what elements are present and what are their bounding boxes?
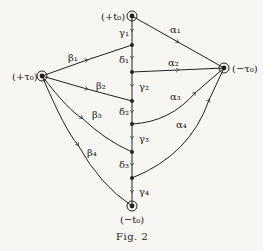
label-delta3: δ₃ bbox=[119, 159, 129, 170]
label-gamma2: γ₂ bbox=[139, 81, 149, 92]
label-alpha1: α₁ bbox=[170, 24, 181, 35]
label-alpha4: α₄ bbox=[176, 119, 187, 130]
node-5 bbox=[130, 150, 134, 154]
node-2 bbox=[130, 70, 134, 74]
label-gamma1: γ₁ bbox=[119, 27, 129, 38]
label-beta3: β₃ bbox=[92, 109, 102, 120]
label-left-node: (+τ₀) bbox=[12, 71, 38, 82]
node-4 bbox=[130, 122, 134, 126]
node-6 bbox=[130, 176, 134, 180]
label-beta4: β₄ bbox=[87, 147, 97, 158]
label-beta1: β₁ bbox=[68, 52, 78, 63]
label-delta1: δ₁ bbox=[119, 54, 129, 65]
label-alpha2: α₂ bbox=[168, 57, 179, 68]
edge-beta4 bbox=[42, 76, 132, 206]
node-1 bbox=[130, 43, 134, 47]
figure-caption: Fig. 2 bbox=[116, 231, 148, 242]
node-bottom bbox=[130, 204, 135, 209]
label-right-node: (−τ₀) bbox=[232, 63, 258, 74]
figure-2: (+t₀) (+τ₀) (−τ₀) (−t₀) α₁ α₂ α₃ α₄ β₁ β… bbox=[0, 0, 263, 251]
edge-beta2 bbox=[42, 76, 132, 101]
label-delta2: δ₂ bbox=[119, 106, 129, 117]
network-diagram: (+t₀) (+τ₀) (−τ₀) (−t₀) α₁ α₂ α₃ α₄ β₁ β… bbox=[0, 0, 263, 251]
label-gamma3: γ₃ bbox=[139, 133, 149, 144]
node-right bbox=[222, 66, 227, 71]
label-beta2: β₂ bbox=[96, 80, 106, 91]
label-gamma4: γ₄ bbox=[139, 186, 149, 197]
node-top bbox=[130, 14, 135, 19]
label-alpha3: α₃ bbox=[170, 91, 181, 102]
label-top-node: (+t₀) bbox=[101, 11, 125, 22]
label-bottom-node: (−t₀) bbox=[120, 214, 144, 225]
edge-alpha2 bbox=[132, 68, 224, 72]
node-left bbox=[40, 74, 45, 79]
node-3 bbox=[130, 99, 134, 103]
